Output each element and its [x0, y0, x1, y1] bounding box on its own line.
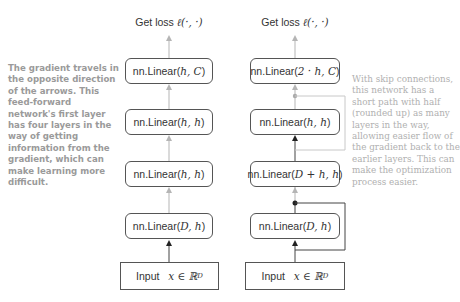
left-layer-linear-d-h: nn.Linear(D, h): [125, 213, 213, 239]
right-input-box: Input x ∈ ℝD: [245, 262, 345, 290]
left-layer-linear-h-h-1: nn.Linear(h, h): [125, 109, 213, 135]
left-layer-linear-h-c: nn.Linear(h, C): [125, 58, 213, 84]
right-loss-label: Get loss ℓ(·, ·): [246, 16, 344, 28]
right-annotation: With skip connections, this network has …: [352, 74, 460, 188]
right-layer-linear-d-h: nn.Linear(D, h): [250, 213, 340, 239]
right-layer-linear-h-h: nn.Linear(h, h): [250, 109, 340, 135]
left-layer-linear-h-h-2: nn.Linear(h, h): [125, 161, 213, 187]
left-input-box: Input x ∈ ℝD: [120, 262, 219, 290]
left-loss-label: Get loss ℓ(·, ·): [120, 16, 218, 28]
right-layer-linear-2h-c: nn.Linear(2 · h, C): [250, 58, 340, 84]
right-layer-linear-dh-h: nn.Linear(D + h, h): [250, 161, 340, 187]
left-annotation: The gradient travels in the opposite dir…: [8, 63, 120, 188]
